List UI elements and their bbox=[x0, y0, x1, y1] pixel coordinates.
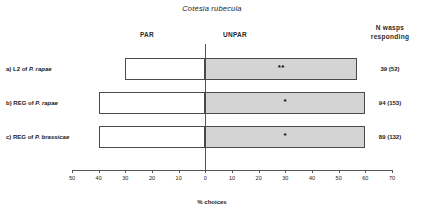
x-axis-tick-label: 10 bbox=[169, 175, 189, 181]
x-axis-tick-label: 20 bbox=[142, 175, 162, 181]
x-axis-tick-label: 30 bbox=[275, 175, 295, 181]
x-axis-tick bbox=[72, 170, 73, 173]
x-axis-tick bbox=[365, 170, 366, 173]
bar-par bbox=[99, 92, 206, 114]
significance-marker: ** bbox=[266, 63, 296, 72]
x-axis-tick bbox=[99, 170, 100, 173]
x-axis-tick bbox=[285, 170, 286, 173]
n-responding-value: 39 (52) bbox=[358, 66, 422, 72]
x-axis-tick-label: 60 bbox=[355, 175, 375, 181]
row-label-species: P. rapae bbox=[35, 100, 58, 106]
x-axis-tick bbox=[152, 170, 153, 173]
plot-area: 5040302010010203040506070**** bbox=[0, 0, 424, 222]
x-axis-tick-label: 30 bbox=[115, 175, 135, 181]
x-axis-tick-label: 70 bbox=[382, 175, 402, 181]
x-axis-tick bbox=[339, 170, 340, 173]
n-responding-value: 89 (132) bbox=[358, 134, 422, 140]
x-axis-tick bbox=[232, 170, 233, 173]
x-axis-tick bbox=[125, 170, 126, 173]
x-axis-tick-label: 50 bbox=[329, 175, 349, 181]
row-label-prefix: b) REG of bbox=[6, 100, 35, 106]
x-axis-tick bbox=[392, 170, 393, 173]
row-label: a) L2 of P. rapae bbox=[6, 66, 102, 72]
x-axis-title: % choices bbox=[0, 199, 424, 205]
x-axis-tick-label: 40 bbox=[89, 175, 109, 181]
row-label-species: P. brassicae bbox=[35, 134, 69, 140]
x-axis-tick bbox=[205, 170, 206, 173]
row-label: b) REG of P. rapae bbox=[6, 100, 102, 106]
significance-marker: * bbox=[270, 97, 300, 106]
x-axis-tick bbox=[312, 170, 313, 173]
bar-par bbox=[99, 126, 206, 148]
row-label-species: P. rapae bbox=[29, 66, 52, 72]
x-axis-tick bbox=[259, 170, 260, 173]
chart-container: Cotesia rubecula PAR UNPAR N wasps respo… bbox=[0, 0, 424, 222]
x-axis-tick bbox=[179, 170, 180, 173]
row-label-prefix: a) L2 of bbox=[6, 66, 29, 72]
x-axis-tick-label: 10 bbox=[222, 175, 242, 181]
row-label-prefix: c) REG of bbox=[6, 134, 35, 140]
x-axis-tick-label: 20 bbox=[249, 175, 269, 181]
x-axis-tick-label: 40 bbox=[302, 175, 322, 181]
x-axis-tick-label: 50 bbox=[62, 175, 82, 181]
n-responding-value: 94 (153) bbox=[358, 100, 422, 106]
x-axis-tick-label: 0 bbox=[195, 175, 215, 181]
row-label: c) REG of P. brassicae bbox=[6, 134, 102, 140]
bar-par bbox=[125, 58, 205, 80]
significance-marker: * bbox=[270, 131, 300, 140]
